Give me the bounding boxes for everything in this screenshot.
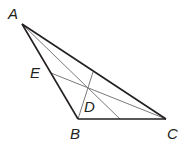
triangle-diagram: A E D B C [0, 0, 190, 163]
diagram-canvas: A E D B C [0, 0, 190, 163]
label-d: D [84, 98, 95, 115]
label-e: E [30, 64, 41, 81]
label-c: C [167, 125, 178, 142]
label-b: B [70, 125, 80, 142]
cevian-c-to-e [51, 73, 166, 119]
label-a: A [7, 5, 18, 22]
